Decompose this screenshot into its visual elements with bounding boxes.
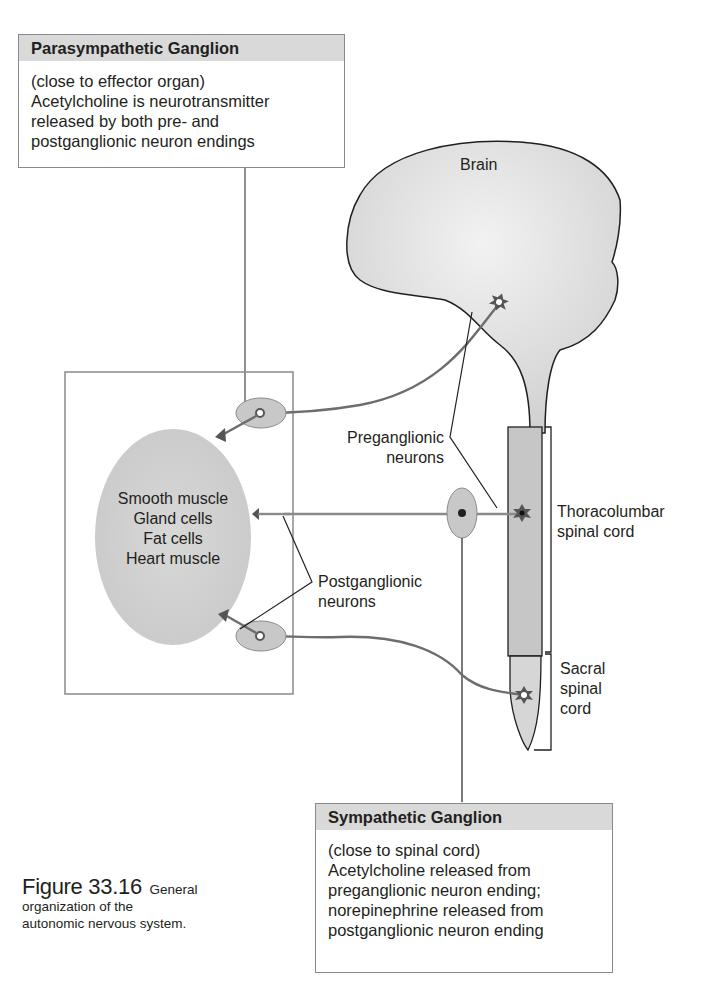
description-line: (close to effector organ) bbox=[31, 71, 332, 91]
preganglionic-pointer bbox=[450, 312, 497, 508]
axon-terminal-middle bbox=[252, 508, 259, 520]
parasympathetic-title: Parasympathetic Ganglion bbox=[19, 35, 344, 61]
sympathetic-title: Sympathetic Ganglion bbox=[316, 804, 612, 830]
parasympathetic-description: (close to effector organ) Acetylcholine … bbox=[19, 61, 344, 159]
label-line: Thoracolumbar bbox=[557, 502, 665, 522]
label-line: neurons bbox=[318, 592, 422, 612]
axon-terminal-upper bbox=[215, 428, 226, 442]
thoracolumbar-label: Thoracolumbar spinal cord bbox=[557, 502, 665, 542]
description-line: postganglionic neuron ending bbox=[328, 920, 600, 940]
label-line: spinal bbox=[560, 679, 605, 699]
label-line: spinal cord bbox=[557, 522, 665, 542]
description-line: (close to spinal cord) bbox=[328, 840, 600, 860]
caption-text: General bbox=[149, 882, 197, 897]
description-line: preganglionic neuron ending; bbox=[328, 880, 600, 900]
sacral-cord bbox=[510, 656, 541, 750]
figure-caption: Figure 33.16 General organization of the… bbox=[22, 878, 197, 932]
postganglionic-label: Postganglionic neurons bbox=[318, 572, 422, 612]
description-line: postganglionic neuron endings bbox=[31, 131, 332, 151]
label-line: Postganglionic bbox=[318, 572, 422, 592]
label-line: cord bbox=[560, 699, 605, 719]
label-line: Sacral bbox=[560, 659, 605, 679]
sympathetic-ganglion-box: Sympathetic Ganglion (close to spinal co… bbox=[315, 803, 613, 973]
effector-line: Fat cells bbox=[95, 529, 251, 549]
description-line: Acetylcholine released from bbox=[328, 860, 600, 880]
description-line: released by both pre- and bbox=[31, 111, 332, 131]
brain-shape bbox=[347, 141, 621, 433]
parasympathetic-ganglion-box: Parasympathetic Ganglion (close to effec… bbox=[18, 34, 345, 168]
synapse-sympathetic bbox=[458, 509, 466, 517]
figure-number: Figure 33.16 bbox=[22, 874, 142, 899]
thoracolumbar-cord bbox=[508, 427, 542, 656]
brain-label: Brain bbox=[460, 155, 497, 175]
preganglionic-label: Preganglionic neurons bbox=[316, 428, 444, 468]
effector-line: Heart muscle bbox=[95, 549, 251, 569]
label-line: Preganglionic bbox=[316, 428, 444, 448]
preganglionic-parasympathetic-upper bbox=[262, 305, 498, 413]
effector-line: Gland cells bbox=[95, 509, 251, 529]
sympathetic-description: (close to spinal cord) Acetylcholine rel… bbox=[316, 830, 612, 948]
effector-organ-label: Smooth muscle Gland cells Fat cells Hear… bbox=[95, 489, 251, 569]
effector-line: Smooth muscle bbox=[95, 489, 251, 509]
label-line: neurons bbox=[316, 448, 444, 468]
caption-text: autonomic nervous system. bbox=[22, 915, 197, 932]
description-line: Acetylcholine is neurotransmitter bbox=[31, 91, 332, 111]
caption-text: organization of the bbox=[22, 898, 197, 915]
preganglionic-parasympathetic-lower bbox=[262, 636, 524, 695]
description-line: norepinephrine released from bbox=[328, 900, 600, 920]
thoracolumbar-bracket bbox=[545, 427, 551, 652]
sacral-label: Sacral spinal cord bbox=[560, 659, 605, 719]
